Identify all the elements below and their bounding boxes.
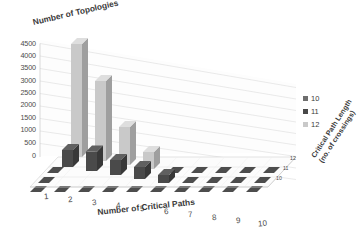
legend-item-10[interactable]: 10 — [303, 92, 319, 105]
z-tick-label: 10 — [276, 175, 282, 181]
legend-item-label: 10 — [311, 94, 319, 103]
x-tick-label: 10 — [258, 219, 268, 229]
legend-item-label: 11 — [311, 107, 319, 116]
legend: 10 11 12 — [303, 92, 319, 131]
legend-swatch-icon — [303, 109, 308, 114]
legend-item-12[interactable]: 12 — [303, 118, 319, 131]
x-tick-label: 2 — [68, 195, 73, 204]
legend-swatch-icon — [303, 122, 308, 127]
legend-swatch-icon — [303, 96, 308, 101]
z-tick-label: 12 — [290, 155, 296, 161]
x-tick-label: 8 — [212, 213, 217, 222]
x-tick-label: 3 — [92, 198, 97, 207]
caption-text — [0, 236, 360, 241]
x-tick-label: 9 — [236, 216, 241, 225]
chart-3d-topologies: 4500 4000 3500 3000 2500 2000 1500 1000 … — [0, 0, 360, 241]
bar-series11-cat2 — [62, 144, 79, 167]
legend-item-label: 12 — [311, 120, 319, 129]
legend-item-11[interactable]: 11 — [303, 105, 319, 118]
bar-series12-cat2 — [71, 38, 88, 157]
x-tick-label: 1 — [44, 192, 49, 201]
x-tick-label: 7 — [188, 210, 193, 219]
bar-series11-cat3 — [86, 146, 103, 172]
z-tick-label: 11 — [283, 165, 288, 171]
